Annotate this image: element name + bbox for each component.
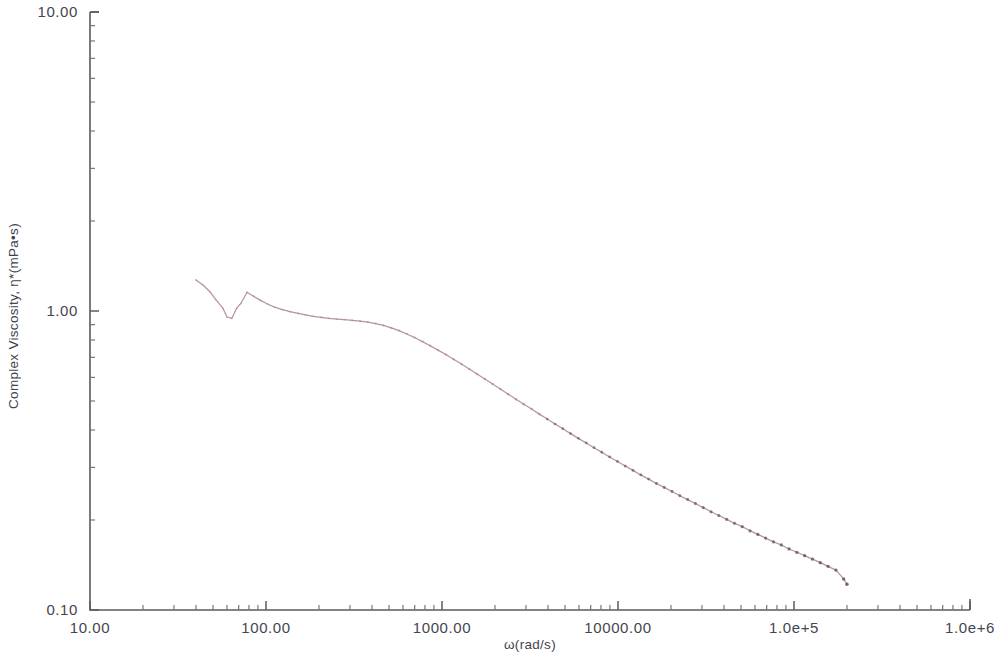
- data-point: [624, 465, 627, 468]
- data-point: [710, 510, 713, 513]
- data-point: [336, 318, 338, 320]
- data-point: [406, 333, 408, 335]
- data-point: [569, 432, 572, 435]
- chart-canvas: 10.00100.001000.0010000.001.0e+51.0e+6 1…: [0, 0, 1005, 659]
- data-point: [437, 349, 439, 351]
- x-tick-label: 100.00: [241, 619, 290, 636]
- data-point: [209, 291, 211, 293]
- data-point: [756, 533, 759, 536]
- data-point: [476, 373, 478, 375]
- data-point: [429, 345, 431, 347]
- x-tick-label: 10.00: [70, 619, 111, 636]
- x-tick-label: 1.0e+5: [769, 619, 819, 636]
- data-point: [834, 568, 837, 571]
- data-point: [845, 582, 848, 585]
- data-point: [819, 561, 822, 564]
- data-point: [733, 522, 736, 525]
- data-point: [554, 423, 557, 426]
- data-point: [312, 315, 314, 317]
- data-point: [259, 299, 261, 301]
- data-point: [523, 403, 526, 406]
- data-point: [772, 540, 775, 543]
- data-point: [499, 388, 502, 391]
- data-point: [725, 518, 728, 521]
- x-axis-title: ω(rad/s): [504, 637, 556, 652]
- data-point: [375, 322, 377, 324]
- data-point: [702, 506, 705, 509]
- data-point: [671, 490, 674, 493]
- data-point: [694, 502, 697, 505]
- data-point: [236, 308, 238, 310]
- data-point: [616, 460, 619, 463]
- data-point: [398, 329, 400, 331]
- data-point: [231, 317, 233, 319]
- data-point: [515, 398, 518, 401]
- data-point: [281, 309, 283, 311]
- data-point: [452, 358, 454, 360]
- data-point: [678, 494, 681, 497]
- x-tick-label: 1000.00: [413, 619, 471, 636]
- x-tick-label: 10000.00: [584, 619, 651, 636]
- chart-background: [0, 0, 1005, 659]
- data-point: [538, 413, 541, 416]
- data-point: [787, 547, 790, 550]
- y-tick-label: 0.10: [46, 601, 78, 618]
- data-point: [546, 418, 549, 421]
- data-point: [195, 279, 197, 281]
- data-point: [507, 393, 510, 396]
- data-point: [647, 478, 650, 481]
- data-point: [274, 306, 276, 308]
- y-tick-label: 1.00: [46, 302, 78, 319]
- data-point: [297, 312, 299, 314]
- data-point: [240, 303, 242, 305]
- data-point: [222, 308, 224, 310]
- data-point: [686, 498, 689, 501]
- data-point: [460, 363, 462, 365]
- data-point: [842, 577, 845, 580]
- data-point: [530, 408, 533, 411]
- data-point: [202, 284, 204, 286]
- data-point: [748, 529, 751, 532]
- data-point: [663, 486, 666, 489]
- data-point: [328, 317, 330, 319]
- data-point: [741, 525, 744, 528]
- data-point: [468, 368, 470, 370]
- data-point: [655, 482, 658, 485]
- data-point: [305, 314, 307, 316]
- data-point: [215, 299, 217, 301]
- data-point: [639, 473, 642, 476]
- data-point: [351, 319, 353, 321]
- data-point: [608, 456, 611, 459]
- data-point: [600, 451, 603, 454]
- data-point: [561, 427, 564, 430]
- data-point: [795, 551, 798, 554]
- data-point: [320, 316, 322, 318]
- data-point: [491, 383, 494, 386]
- data-point: [359, 320, 361, 322]
- data-point: [289, 311, 291, 313]
- data-point: [593, 446, 596, 449]
- data-point: [226, 316, 228, 318]
- y-tick-label: 10.00: [37, 3, 78, 20]
- data-point: [803, 554, 806, 557]
- data-point: [585, 442, 588, 445]
- data-point: [632, 469, 635, 472]
- x-tick-label: 1.0e+6: [945, 619, 995, 636]
- data-point: [780, 543, 783, 546]
- data-point: [390, 327, 392, 329]
- data-point: [413, 336, 415, 338]
- data-point: [421, 340, 423, 342]
- data-point: [382, 324, 384, 326]
- complex-viscosity-chart: 10.00100.001000.0010000.001.0e+51.0e+6 1…: [0, 0, 1005, 659]
- data-point: [445, 353, 447, 355]
- data-point: [343, 319, 345, 321]
- data-point: [253, 295, 255, 297]
- data-point: [764, 536, 767, 539]
- data-point: [267, 303, 269, 305]
- data-point: [246, 291, 248, 293]
- data-point: [367, 321, 369, 323]
- y-axis-title: Complex Viscosity, η*(mPa•s): [6, 223, 21, 409]
- data-point: [811, 557, 814, 560]
- data-point: [717, 514, 720, 517]
- data-point: [577, 437, 580, 440]
